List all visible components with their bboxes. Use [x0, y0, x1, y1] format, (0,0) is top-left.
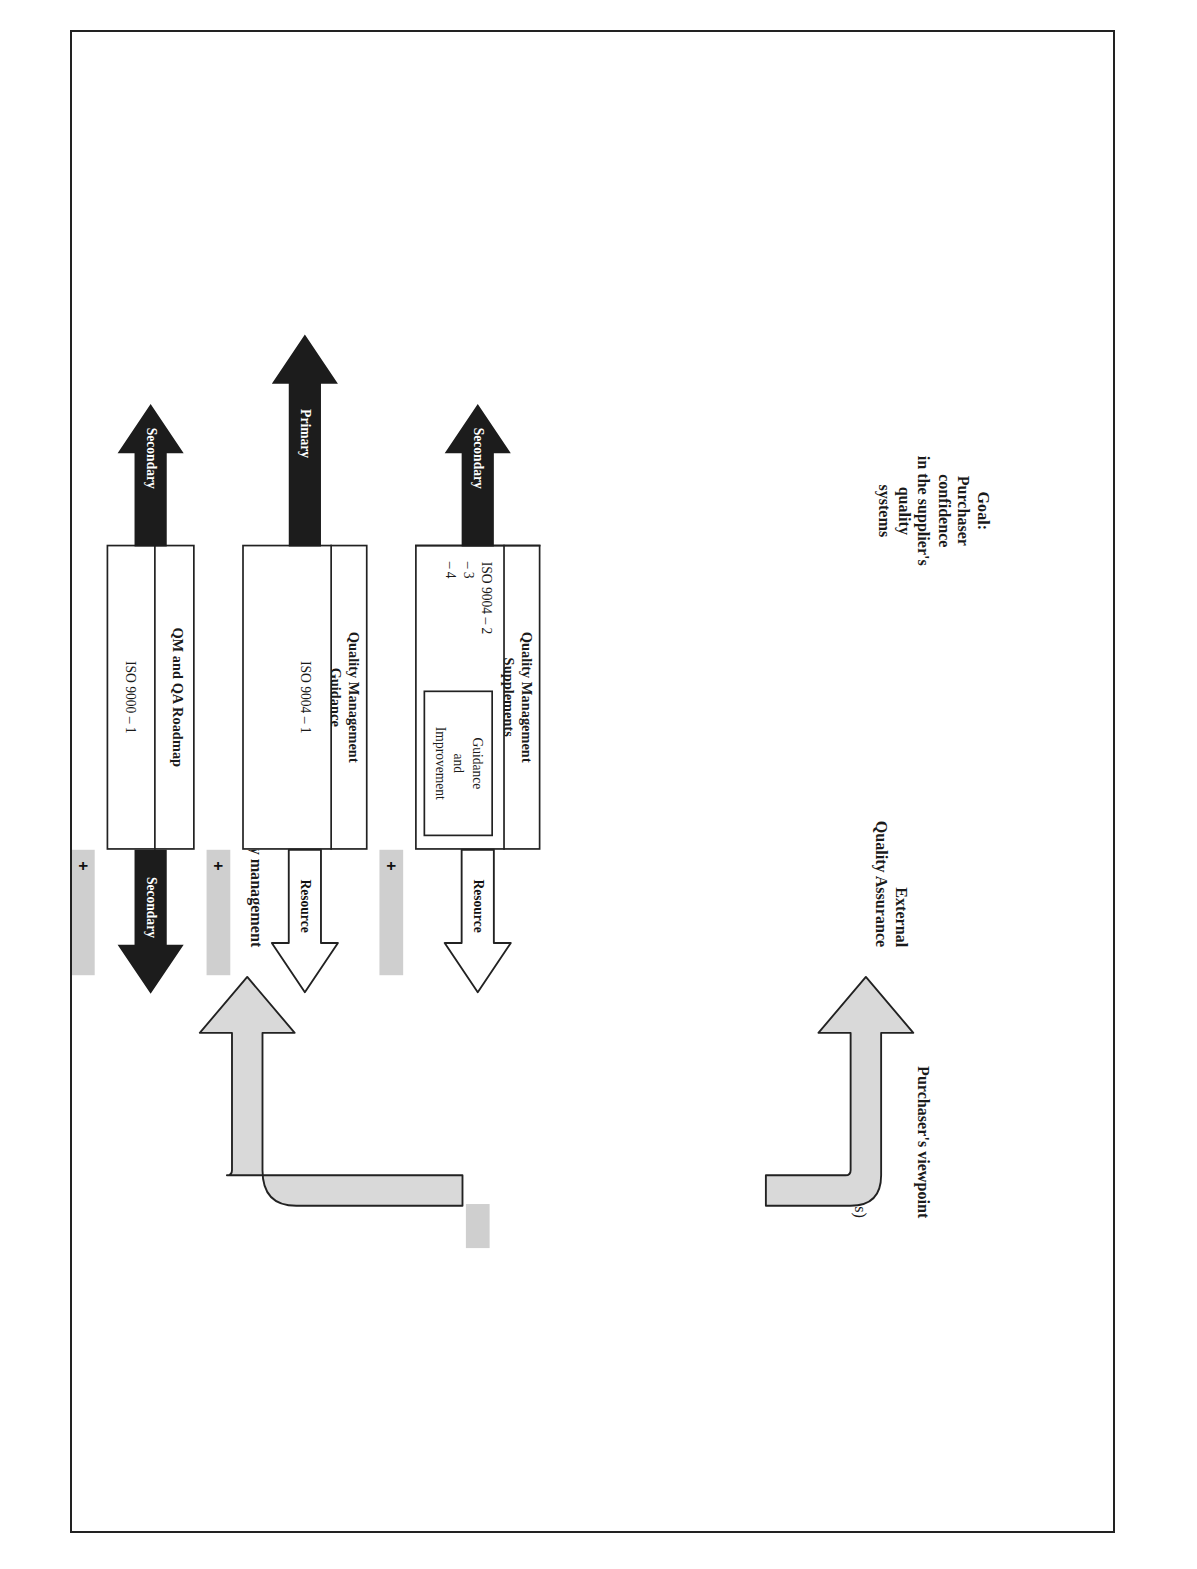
- diagram-stage: Purchaser's viewpoint (Contractual situa…: [126, 36, 1058, 1528]
- column-title: QM and QA Roadmap: [168, 544, 186, 849]
- plus-connector: +: [70, 849, 94, 881]
- resource-arrow-up-label: Resource: [298, 879, 313, 932]
- plus-connector: +: [206, 849, 230, 881]
- primary-arrow-down-label: Primary: [298, 409, 313, 458]
- grey-connector-segment: [70, 881, 94, 974]
- figure-frame: Purchaser's viewpoint (Contractual situa…: [70, 30, 1115, 1533]
- resource-arrow-up-label: Resource: [470, 879, 485, 932]
- plus-connector: +: [379, 849, 403, 881]
- column-standards: ISO 9004 – 1: [295, 544, 313, 849]
- grey-connector-segment: [206, 881, 230, 974]
- column-standards: ISO 9004 – 2 – 3 – 4: [441, 561, 494, 671]
- column-title: Quality Management Guidance: [326, 544, 362, 849]
- secondary-arrow-down-label: Secondary: [143, 427, 158, 488]
- goal-top-text: Goal: Purchaser confidence in the suppli…: [875, 383, 993, 637]
- column-standards: ISO 9000 – 1: [121, 544, 139, 849]
- secondary-arrow-down-label: Secondary: [470, 427, 485, 488]
- column-title: Quality Management Supplements: [499, 544, 535, 849]
- column-subbox-text: Guidance and Improvement: [431, 690, 486, 836]
- grey-connector-segment: [379, 881, 403, 974]
- secondary-arrow-up-label: Secondary: [143, 876, 158, 937]
- external-qa-label: External Quality Assurance: [871, 735, 910, 947]
- grey-connector-stub: [465, 1204, 489, 1248]
- external-qa-loop-arrow: [762, 951, 931, 1222]
